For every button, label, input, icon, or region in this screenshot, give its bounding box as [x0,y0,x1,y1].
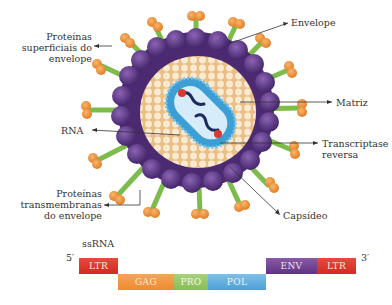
gene-gag: GAG [118,274,174,290]
label-line: superficiais do [4,42,92,53]
label-transmembrane-proteins: Proteínas transmembranas do envelope [2,188,102,221]
gene-ltr-5: LTR [79,258,118,274]
three-prime-label: 3′ [361,252,369,263]
label-line: transmembranas [2,199,102,210]
label-line: Transcriptase [322,138,389,149]
label-line: do envelope [2,210,102,221]
label-capsid: Capsídeo [283,210,327,221]
gene-env: ENV [266,258,317,274]
label-rna: RNA [61,125,83,136]
label-line: envelope [4,53,92,64]
genome-title: ssRNA [82,238,114,249]
gene-ltr-3: LTR [317,258,356,274]
five-prime-label: 5′ [66,252,74,263]
label-line: reversa [322,149,389,160]
label-reverse-transcriptase: Transcriptase reversa [322,138,389,160]
gene-pol: POL [208,274,266,290]
label-surface-proteins: Proteínas superficiais do envelope [4,31,92,64]
gene-pro: PRO [174,274,208,290]
label-envelope: Envelope [291,17,336,28]
label-line: Proteínas [4,31,92,42]
label-matrix: Matriz [336,97,368,108]
label-line: Proteínas [2,188,102,199]
